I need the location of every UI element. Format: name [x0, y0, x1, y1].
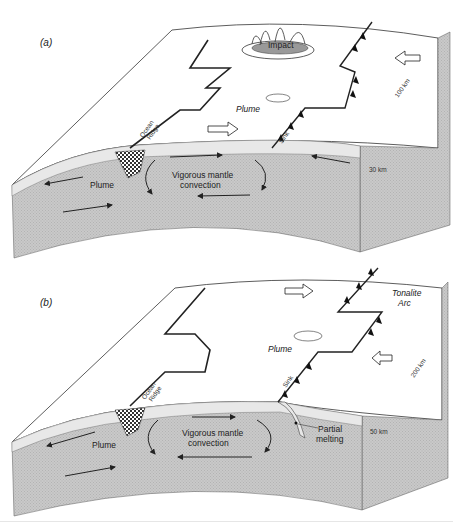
- surface-plume-label: Plume: [236, 104, 260, 114]
- block-diagram-b: (b) Ocean Ridge Sink Tonalite Arc Plume …: [0, 260, 453, 527]
- mantle-plume-label: Plume: [90, 180, 114, 190]
- impact-label: Impact: [268, 40, 294, 50]
- mantle-plume-label: Plume: [92, 440, 116, 450]
- partial-melting-label-2: melting: [316, 434, 344, 444]
- scale-vertical: 50 km: [370, 428, 388, 435]
- tonalite-arc-label-1: Tonalite: [392, 288, 422, 298]
- convection-label-2: convection: [180, 180, 221, 190]
- partial-melting-point: [295, 422, 298, 425]
- tonalite-arc-label-2: Arc: [397, 298, 412, 308]
- convection-label-1: Vigorous mantle: [182, 428, 244, 438]
- surface-plume-label: Plume: [268, 344, 292, 354]
- divider: [0, 521, 453, 522]
- scale-vertical: 30 km: [369, 166, 387, 173]
- panel-label-a: (a): [40, 37, 52, 48]
- block-diagram-a: (a) Ocean Ridge Impact Sink Plume Plume: [0, 0, 453, 260]
- partial-melting-label-1: Partial: [318, 424, 342, 434]
- panel-label-b: (b): [40, 297, 52, 308]
- convection-label-1: Vigorous mantle: [172, 170, 234, 180]
- convection-label-2: convection: [188, 438, 229, 448]
